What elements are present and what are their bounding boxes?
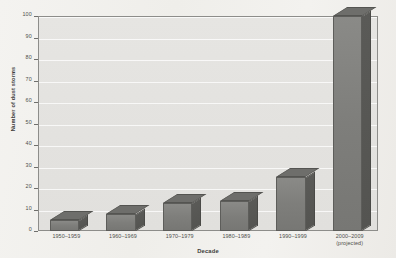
gridline [39, 17, 377, 18]
bar-front-face [163, 203, 192, 231]
y-axis-tick: 40 [0, 145, 38, 146]
gridline [39, 103, 377, 104]
x-axis-title: Decade [38, 248, 378, 254]
bar-side-face [362, 10, 371, 231]
bar [50, 220, 79, 231]
bar [163, 203, 192, 231]
y-axis-tick: 100 [0, 16, 38, 17]
bar-front-face [333, 16, 362, 231]
y-tick-mark [34, 145, 38, 146]
gridline [39, 146, 377, 147]
x-axis-tick-label: 1990–1999 [265, 233, 322, 240]
bar [333, 16, 362, 231]
y-axis-tick: 30 [0, 167, 38, 168]
y-tick-label: 100 [22, 11, 32, 17]
y-tick-mark [34, 102, 38, 103]
x-axis-tick-label-line: 1990–1999 [265, 233, 322, 240]
y-tick-mark [34, 59, 38, 60]
y-axis-tick: 10 [0, 210, 38, 211]
bar-front-face [220, 201, 249, 231]
gridline [39, 189, 377, 190]
bar-front-face [50, 220, 79, 231]
gridline [39, 125, 377, 126]
bar-chart: 0102030405060708090100 Number of dust st… [0, 0, 396, 258]
gridline [39, 60, 377, 61]
y-axis-tick: 90 [0, 38, 38, 39]
y-axis-tick: 50 [0, 124, 38, 125]
y-tick-label: 50 [26, 119, 32, 125]
y-tick-label: 20 [26, 183, 32, 189]
y-tick-mark [34, 167, 38, 168]
x-axis-tick-label: 2000–2009(projected) [321, 233, 378, 247]
gridline [39, 82, 377, 83]
bar-front-face [106, 214, 135, 231]
y-axis: 0102030405060708090100 [0, 0, 38, 258]
plot-area [38, 16, 378, 231]
x-axis-tick-label-line: 1950–1959 [38, 233, 95, 240]
x-axis-tick-label-line: 2000–2009 [321, 233, 378, 240]
gridline [39, 39, 377, 40]
x-axis-tick-label-line: (projected) [321, 240, 378, 247]
bar-front-face [276, 177, 305, 231]
bar-side-face [249, 195, 258, 231]
y-tick-label: 30 [26, 162, 32, 168]
x-axis-labels: 1950–19591960–19691970–19791980–19891990… [38, 233, 378, 258]
y-axis-title: Number of dust storms [10, 56, 16, 142]
y-axis-tick: 20 [0, 188, 38, 189]
y-tick-mark [34, 210, 38, 211]
y-axis-tick: 60 [0, 102, 38, 103]
gridline [39, 168, 377, 169]
y-tick-label: 60 [26, 97, 32, 103]
bar [106, 214, 135, 231]
x-axis-tick-label: 1960–1969 [95, 233, 152, 240]
y-tick-mark [34, 188, 38, 189]
y-tick-mark [34, 124, 38, 125]
y-tick-label: 90 [26, 33, 32, 39]
bar [276, 177, 305, 231]
y-tick-mark [34, 16, 38, 17]
y-tick-label: 0 [29, 226, 32, 232]
y-axis-tick: 70 [0, 81, 38, 82]
x-axis-tick-label: 1950–1959 [38, 233, 95, 240]
x-axis-tick-label: 1970–1979 [151, 233, 208, 240]
y-tick-mark [34, 81, 38, 82]
x-axis-tick-label: 1980–1989 [208, 233, 265, 240]
y-tick-label: 40 [26, 140, 32, 146]
y-axis-tick: 80 [0, 59, 38, 60]
y-tick-mark [34, 38, 38, 39]
x-axis-tick-label-line: 1960–1969 [95, 233, 152, 240]
y-axis-tick: 0 [0, 231, 38, 232]
y-tick-mark [34, 231, 38, 232]
y-tick-label: 80 [26, 54, 32, 60]
x-axis-tick-label-line: 1980–1989 [208, 233, 265, 240]
y-tick-label: 70 [26, 76, 32, 82]
bar-side-face [306, 172, 315, 231]
y-tick-label: 10 [26, 205, 32, 211]
bar [220, 201, 249, 231]
x-axis-tick-label-line: 1970–1979 [151, 233, 208, 240]
